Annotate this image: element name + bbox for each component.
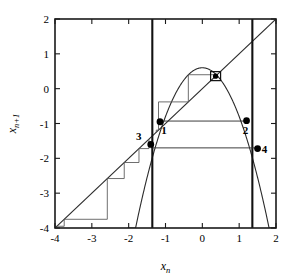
point-label: 3 bbox=[136, 130, 142, 142]
x-tick-label: -4 bbox=[50, 232, 60, 244]
x-tick-label: -2 bbox=[124, 232, 133, 244]
y-tick-label: -2 bbox=[40, 152, 49, 164]
x-tick-label: 2 bbox=[273, 232, 279, 244]
x-tick-label: 0 bbox=[200, 232, 206, 244]
point-label: 1 bbox=[161, 124, 167, 136]
chart-canvas: 1234 -4-3-2-1012 -4-3-2-1012 xn xn+1 bbox=[0, 0, 296, 278]
x-tick-label: -3 bbox=[87, 232, 97, 244]
y-tick-label: 2 bbox=[44, 13, 50, 25]
y-tick-label: -4 bbox=[40, 222, 50, 234]
cobweb-diagram-figure: 1234 -4-3-2-1012 -4-3-2-1012 xn xn+1 bbox=[0, 0, 296, 278]
point-label: 4 bbox=[262, 143, 268, 155]
y-tick-label: -1 bbox=[40, 118, 49, 130]
point-label: 2 bbox=[243, 124, 249, 136]
y-tick-label: -3 bbox=[40, 187, 50, 199]
y-tick-label: 1 bbox=[44, 48, 50, 60]
y-tick-label: 0 bbox=[44, 83, 50, 95]
x-tick-label: 1 bbox=[236, 232, 242, 244]
x-tick-label: -1 bbox=[161, 232, 170, 244]
